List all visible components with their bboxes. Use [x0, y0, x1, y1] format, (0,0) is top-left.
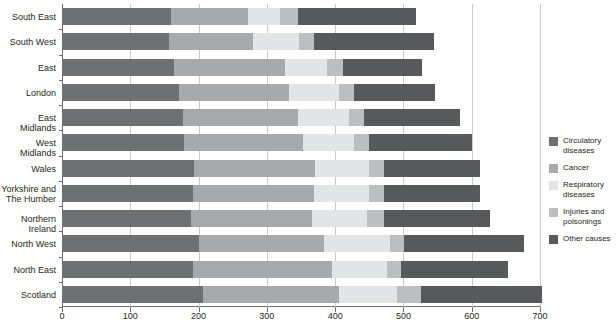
category-label: East: [0, 63, 56, 73]
stacked-bar-chart: South EastSouth WestEastLondonEast Midla…: [0, 0, 616, 331]
legend-item: Other causes: [549, 234, 616, 244]
bar-segment: [387, 261, 401, 278]
bar-segment: [384, 160, 480, 177]
bar-segment: [314, 185, 369, 202]
legend-swatch-icon: [549, 137, 558, 146]
bar-segment: [315, 160, 370, 177]
bar-segment: [203, 286, 340, 303]
bar-segment: [298, 8, 415, 25]
category-axis-tick: [59, 105, 62, 106]
legend-label: Injuries and poisonings: [563, 207, 604, 227]
bar-yorkshire-and-the-humber: [62, 185, 480, 202]
bar-segment: [169, 33, 254, 50]
bar-london: [62, 84, 435, 101]
bar-segment: [62, 286, 203, 303]
x-axis-tick-label: 500: [383, 311, 423, 322]
bar-segment: [354, 134, 369, 151]
bar-segment: [62, 59, 174, 76]
legend-swatch-icon: [549, 235, 558, 244]
bar-segment: [299, 33, 314, 50]
bar-east: [62, 59, 422, 76]
category-axis-tick: [59, 55, 62, 56]
bar-segment: [62, 210, 191, 227]
category-label: Wales: [0, 164, 56, 174]
x-axis-tick-label: 200: [179, 311, 219, 322]
legend-label: Circulatory diseases: [563, 136, 601, 156]
bar-segment: [303, 134, 354, 151]
category-label: Northern Ireland: [0, 214, 56, 234]
category-axis-tick: [59, 307, 62, 308]
bar-segment: [193, 185, 314, 202]
category-label: North West: [0, 239, 56, 249]
bar-segment: [390, 235, 404, 252]
x-axis-tick-label: 700: [520, 311, 560, 322]
bar-segment: [369, 134, 473, 151]
x-axis-tick-label: 0: [42, 311, 82, 322]
legend-swatch-icon: [549, 181, 558, 190]
bar-segment: [367, 210, 384, 227]
bar-north-east: [62, 261, 508, 278]
category-label: Scotland: [0, 290, 56, 300]
legend-item: Injuries and poisonings: [549, 207, 616, 227]
bar-segment: [62, 33, 169, 50]
bar-segment: [62, 134, 184, 151]
bar-segment: [339, 286, 397, 303]
bar-scotland: [62, 286, 542, 303]
bar-segment: [339, 84, 355, 101]
bar-north-west: [62, 235, 524, 252]
legend-item: Respiratory diseases: [549, 180, 616, 200]
plot-area: [62, 4, 540, 307]
bar-west-midlands: [62, 134, 472, 151]
legend-label: Respiratory diseases: [563, 180, 604, 200]
bar-segment: [397, 286, 421, 303]
bar-segment: [183, 109, 298, 126]
legend-swatch-icon: [549, 164, 558, 173]
bar-segment: [193, 261, 332, 278]
bar-segment: [62, 84, 179, 101]
bar-segment: [171, 8, 249, 25]
bar-east-midlands: [62, 109, 460, 126]
category-axis-tick: [59, 29, 62, 30]
category-label: South West: [0, 37, 56, 47]
category-axis-tick: [59, 80, 62, 81]
bar-segment: [332, 261, 387, 278]
x-axis-tick-label: 400: [315, 311, 355, 322]
bar-segment: [62, 109, 183, 126]
category-axis-tick: [59, 206, 62, 207]
bar-segment: [364, 109, 460, 126]
bar-segment: [194, 160, 315, 177]
bar-segment: [253, 33, 299, 50]
category-axis-tick: [59, 130, 62, 131]
category-axis-tick: [59, 231, 62, 232]
legend-label: Cancer: [563, 163, 589, 173]
category-axis-tick: [59, 282, 62, 283]
legend-item: Cancer: [549, 163, 616, 173]
bar-northern-ireland: [62, 210, 490, 227]
bar-segment: [349, 109, 364, 126]
category-axis-tick: [59, 156, 62, 157]
category-label: South East: [0, 12, 56, 22]
x-axis-tick-label: 600: [452, 311, 492, 322]
bar-segment: [369, 185, 384, 202]
category-label: London: [0, 88, 56, 98]
bar-segment: [179, 84, 290, 101]
bar-segment: [285, 59, 327, 76]
legend-swatch-icon: [549, 208, 558, 217]
category-label: North East: [0, 265, 56, 275]
bar-segment: [62, 8, 171, 25]
bar-segment: [314, 33, 434, 50]
category-label: West Midlands: [0, 138, 56, 158]
bar-segment: [384, 210, 490, 227]
bar-segment: [199, 235, 325, 252]
category-label: East Midlands: [0, 113, 56, 133]
bar-segment: [384, 185, 480, 202]
gridline: [540, 4, 541, 307]
bar-segment: [62, 160, 194, 177]
bar-segment: [174, 59, 285, 76]
category-label: Yorkshire and The Humber: [0, 184, 56, 204]
bar-segment: [369, 160, 384, 177]
x-axis-tick-label: 300: [247, 311, 287, 322]
bar-wales: [62, 160, 480, 177]
legend-label: Other causes: [563, 234, 611, 244]
bar-segment: [354, 84, 435, 101]
